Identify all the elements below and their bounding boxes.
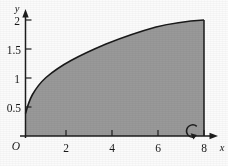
y-tick-label-2: 2 [14,15,20,27]
y-axis-label: y [14,3,20,14]
y-tick-label-1: 1 [14,73,20,85]
figure-container: 2 1.5 1 0.5 2 4 6 8 O x y [0,0,228,166]
y-tick-label-1-5: 1.5 [7,44,22,56]
x-tick-label-6: 6 [155,142,161,154]
x-tick-label-4: 4 [109,142,115,154]
x-axis-arrowhead [210,133,219,139]
y-tick-label-0-5: 0.5 [7,102,22,114]
x-axis-label: x [219,142,225,153]
cube-root-area-chart: 2 1.5 1 0.5 2 4 6 8 O x y [0,0,228,166]
x-tick-label-8: 8 [201,142,207,154]
x-tick-label-2: 2 [63,142,69,154]
shaded-region-group [26,20,205,136]
shaded-region-under-curve [26,20,205,136]
y-axis-arrowhead [22,9,28,18]
origin-label: O [12,140,21,152]
